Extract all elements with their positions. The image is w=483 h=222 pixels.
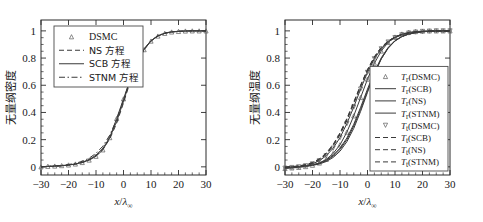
x-axis-label: x/λ∞	[357, 195, 376, 210]
chart-panel-density: −30−20−10010203000.20.40.60.81 DSMCNS 方程…	[0, 0, 241, 222]
y-tick-label: 0	[31, 161, 37, 173]
y-tick-label: 0.6	[22, 79, 36, 91]
x-tick-label: 10	[146, 178, 158, 190]
x-tick-label: 0	[365, 178, 371, 190]
x-tick-label: −20	[304, 178, 322, 190]
legend-item-label[interactable]: STNM 方程	[89, 72, 139, 83]
x-tick-label: 30	[201, 178, 213, 190]
y-tick-label: 0.2	[22, 134, 36, 146]
y-tick-label: 0.8	[22, 52, 36, 64]
y-tick-label: 0.4	[22, 106, 36, 118]
legend-item-label[interactable]: NS 方程	[89, 45, 125, 56]
figure-two-panel-chart: −30−20−10010203000.20.40.60.81 DSMCNS 方程…	[0, 0, 483, 222]
x-tick-label: −10	[331, 178, 349, 190]
x-tick-label: 10	[390, 178, 402, 190]
x-tick-label: 20	[173, 178, 185, 190]
y-tick-label: 0.4	[266, 106, 280, 118]
density-plot-svg: −30−20−10010203000.20.40.60.81 DSMCNS 方程…	[0, 0, 241, 222]
y-tick-label: 0.8	[266, 52, 280, 64]
legend-box	[370, 66, 448, 171]
x-tick-label: 20	[417, 178, 429, 190]
y-tick-label: 0.6	[266, 79, 280, 91]
x-tick-label: −20	[60, 178, 78, 190]
y-tick-label: 0	[275, 161, 281, 173]
x-tick-label: 0	[121, 178, 127, 190]
x-tick-label: −10	[87, 178, 105, 190]
x-axis-label: x/λ∞	[113, 195, 132, 210]
y-axis-label: 无量纲温度	[248, 70, 262, 125]
y-tick-label: 1	[275, 25, 281, 37]
legend-item-label[interactable]: SCB 方程	[89, 58, 131, 69]
chart-panel-temperature: −30−20−10010203000.20.40.60.81 Tr(DSMC)T…	[241, 0, 483, 222]
y-tick-label: 1	[31, 25, 37, 37]
x-tick-label: −30	[32, 178, 50, 190]
x-tick-label: −30	[276, 178, 294, 190]
x-tick-label: 30	[445, 178, 457, 190]
y-axis-label: 无量纲密度	[4, 70, 18, 125]
temperature-plot-svg: −30−20−10010203000.20.40.60.81 Tr(DSMC)T…	[241, 0, 483, 222]
y-tick-label: 0.2	[266, 134, 280, 146]
legend-item-label[interactable]: DSMC	[89, 31, 118, 42]
